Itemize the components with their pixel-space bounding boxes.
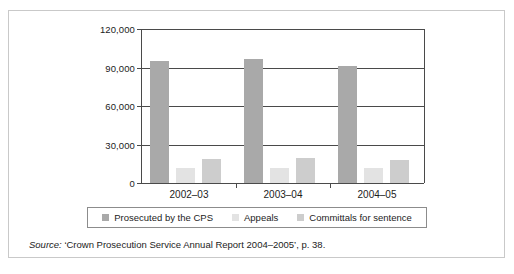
y-tick-label: 120,000: [100, 24, 135, 35]
bar: [244, 59, 263, 183]
legend-label: Committals for sentence: [309, 212, 411, 223]
x-tick-label: 2002–03: [170, 189, 209, 200]
x-tick-label: 2004–05: [358, 189, 397, 200]
legend-swatch-icon: [102, 214, 109, 221]
legend-item: Appeals: [232, 212, 278, 223]
figure-frame: 030,00060,00090,000120,000 2002–032003–0…: [8, 10, 505, 258]
y-tick-label: 90,000: [105, 62, 135, 73]
source-text: ‘Crown Prosecution Service Annual Report…: [62, 239, 326, 250]
y-tick-label: 60,000: [105, 101, 135, 112]
bar: [270, 168, 289, 183]
chart-legend: Prosecuted by the CPSAppealsCommittals f…: [87, 207, 427, 228]
legend-swatch-icon: [232, 214, 239, 221]
y-tick-label: 0: [130, 178, 135, 189]
source-note: Source: ‘Crown Prosecution Service Annua…: [29, 239, 325, 250]
bar-group: [150, 29, 221, 183]
y-tick-mark: [137, 68, 142, 69]
legend-label: Prosecuted by the CPS: [114, 212, 213, 223]
y-tick-label: 30,000: [105, 139, 135, 150]
plot-right-edge: [424, 29, 425, 183]
y-tick-mark: [137, 183, 142, 184]
y-tick-mark: [137, 145, 142, 146]
y-tick-mark: [137, 106, 142, 107]
bar: [364, 168, 383, 183]
legend-item: Prosecuted by the CPS: [102, 212, 213, 223]
bar: [176, 168, 195, 183]
bar: [296, 158, 315, 183]
bar: [390, 160, 409, 183]
plot-area: 030,00060,00090,000120,000 2002–032003–0…: [141, 29, 424, 184]
bar: [338, 66, 357, 183]
x-tick-mark: [236, 183, 237, 188]
bar: [202, 159, 221, 183]
x-tick-label: 2003–04: [264, 189, 303, 200]
bar: [150, 61, 169, 183]
bar-group: [244, 29, 315, 183]
source-label: Source:: [29, 239, 62, 250]
bar-group: [338, 29, 409, 183]
legend-swatch-icon: [297, 214, 304, 221]
legend-label: Appeals: [244, 212, 278, 223]
y-tick-mark: [137, 29, 142, 30]
x-tick-mark: [330, 183, 331, 188]
legend-item: Committals for sentence: [297, 212, 411, 223]
